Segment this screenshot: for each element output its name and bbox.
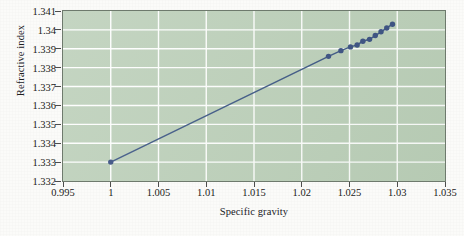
y-tick-label: 1.339 [4, 43, 56, 54]
x-tick-mark [445, 182, 446, 187]
x-tick-label: 1.035 [415, 187, 464, 198]
y-tick-mark [55, 162, 61, 163]
data-point-marker [338, 48, 343, 53]
y-tick-mark [55, 181, 61, 182]
y-tick-label: 1.334 [4, 138, 56, 149]
data-point-marker [390, 22, 395, 27]
gridlines [63, 11, 445, 181]
x-axis-title: Specific gravity [62, 206, 446, 217]
data-point-marker [367, 37, 372, 42]
data-point-marker [360, 39, 365, 44]
y-tick-mark [55, 105, 61, 106]
x-tick-mark [397, 182, 398, 187]
y-tick-mark [55, 86, 61, 87]
data-point-marker [108, 159, 113, 164]
y-tick-label: 1.338 [4, 62, 56, 73]
x-tick-mark [254, 182, 255, 187]
y-tick-mark [55, 67, 61, 68]
chart-figure: Refractive index 1.3321.3331.3341.3351.3… [0, 0, 464, 236]
data-point-marker [378, 29, 383, 34]
plot-area [62, 10, 446, 182]
x-tick-mark [110, 182, 111, 187]
y-tick-mark [55, 11, 61, 12]
y-tick-label: 1.335 [4, 119, 56, 130]
y-tick-label: 1.333 [4, 157, 56, 168]
data-point-marker [384, 25, 389, 30]
y-tick-label: 1.336 [4, 100, 56, 111]
y-tick-mark [55, 143, 61, 144]
data-point-marker [326, 54, 331, 59]
y-tick-mark [55, 29, 61, 30]
x-axis-tick-labels: 0.99511.0051.011.0151.021.0251.031.035 [0, 187, 464, 203]
y-tick-mark [55, 48, 61, 49]
y-tick-label: 1.332 [4, 176, 56, 187]
y-tick-mark [55, 124, 61, 125]
x-tick-mark [63, 182, 64, 187]
data-point-marker [373, 33, 378, 38]
x-tick-mark [206, 182, 207, 187]
data-point-marker [354, 42, 359, 47]
y-tick-label: 1.337 [4, 81, 56, 92]
y-tick-label: 1.34 [4, 24, 56, 35]
x-tick-mark [349, 182, 350, 187]
plot-canvas [63, 11, 445, 181]
data-point-marker [348, 44, 353, 49]
x-tick-mark [301, 182, 302, 187]
y-tick-label: 1.341 [4, 6, 56, 17]
x-tick-mark [158, 182, 159, 187]
